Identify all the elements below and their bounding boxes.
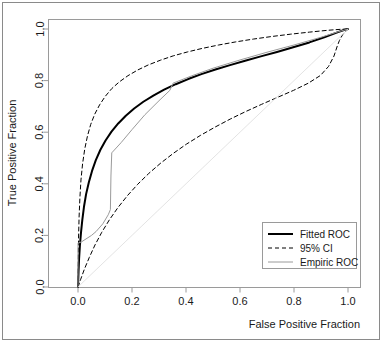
x-tick-label: 0.6	[232, 295, 247, 307]
y-tick-label: 0.2	[34, 228, 46, 243]
y-axis-ticks	[44, 29, 49, 287]
y-tick-label: 0.4	[34, 176, 46, 191]
x-tick-label: 0.8	[286, 295, 301, 307]
legend-label-fitted-roc: Fitted ROC	[300, 229, 350, 240]
x-axis-ticks	[78, 288, 348, 293]
legend: Fitted ROC95% CIEmpiric ROC	[263, 223, 359, 269]
y-axis-tick-labels: 0.00.20.40.60.81.0	[34, 21, 46, 294]
x-tick-label: 1.0	[340, 295, 355, 307]
y-axis-title: True Positive Fraction	[6, 100, 18, 207]
roc-chart: 0.00.20.40.60.81.0 0.00.20.40.60.81.0 Fa…	[0, 0, 386, 345]
x-tick-label: 0.4	[178, 295, 193, 307]
legend-label-empiric-roc: Empiric ROC	[300, 257, 358, 268]
x-tick-label: 0.0	[70, 295, 85, 307]
x-axis-title: False Positive Fraction	[249, 318, 360, 330]
x-tick-label: 0.2	[124, 295, 139, 307]
y-tick-label: 1.0	[34, 21, 46, 36]
roc-figure: 0.00.20.40.60.81.0 0.00.20.40.60.81.0 Fa…	[0, 0, 386, 345]
legend-label-95-ci: 95% CI	[300, 243, 333, 254]
y-tick-label: 0.0	[34, 279, 46, 294]
y-tick-label: 0.8	[34, 73, 46, 88]
y-tick-label: 0.6	[34, 125, 46, 140]
x-axis-tick-labels: 0.00.20.40.60.81.0	[70, 295, 355, 307]
